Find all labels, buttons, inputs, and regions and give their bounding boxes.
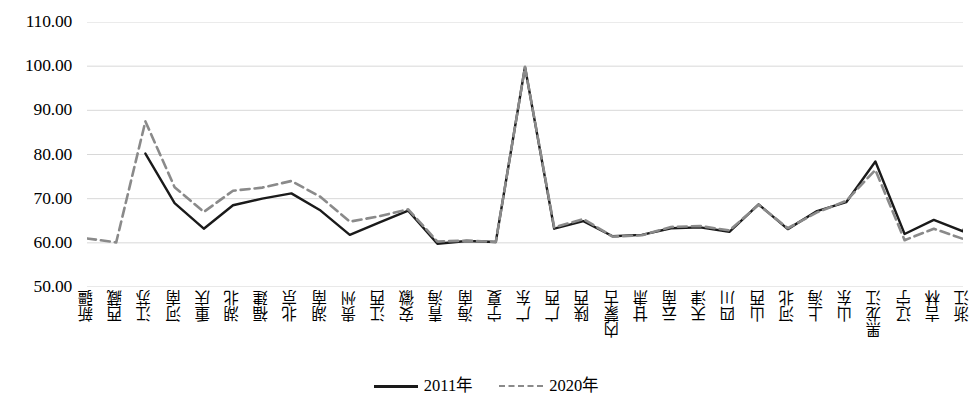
x-tick-label: 宁夏 xyxy=(488,290,504,322)
x-tick-label: 甘肃 xyxy=(634,290,650,322)
x-tick-label: 福建 xyxy=(254,290,270,322)
x-tick-label: 湖南 xyxy=(313,290,329,322)
x-tick-label: 安徽 xyxy=(400,290,416,322)
y-tick-label: 70.00 xyxy=(34,190,72,208)
line-chart: 110.00100.0090.0080.0070.0060.0050.00 新疆… xyxy=(0,0,973,411)
y-tick-label: 60.00 xyxy=(34,234,72,252)
legend-line-icon xyxy=(374,385,418,388)
chart-legend: 2011年2020年 xyxy=(0,378,973,395)
x-tick-label: 广东 xyxy=(517,290,533,322)
x-tick-label: 新疆 xyxy=(79,290,95,322)
x-tick-label: 西藏 xyxy=(108,290,124,322)
y-tick-label: 80.00 xyxy=(34,146,72,164)
x-tick-label: 北京 xyxy=(283,290,299,322)
x-tick-label: 内蒙古 xyxy=(605,290,621,338)
x-tick-label: 江苏 xyxy=(137,290,153,322)
x-tick-label: 黑龙江 xyxy=(867,290,883,338)
x-tick-label: 青海 xyxy=(429,290,445,322)
x-tick-label: 贵州 xyxy=(342,290,358,322)
y-axis: 110.00100.0090.0080.0070.0060.0050.00 xyxy=(0,0,80,311)
y-tick-label: 50.00 xyxy=(34,278,72,296)
x-tick-label: 陕西 xyxy=(575,290,591,322)
x-tick-label: 湖北 xyxy=(225,290,241,322)
x-tick-label: 重庆 xyxy=(196,290,212,322)
x-tick-label: 辽宁 xyxy=(897,290,913,322)
x-tick-label: 四川 xyxy=(721,290,737,322)
x-tick-label: 江西 xyxy=(371,290,387,322)
x-tick-label: 山东 xyxy=(838,290,854,322)
x-tick-label: 浙江 xyxy=(955,290,971,322)
y-tick-label: 110.00 xyxy=(26,13,72,31)
x-tick-label: 上海 xyxy=(809,290,825,322)
legend-entry[interactable]: 2011年 xyxy=(374,378,473,395)
x-tick-label: 吉林 xyxy=(926,290,942,322)
x-axis: 新疆西藏江苏河南重庆湖北福建北京湖南贵州江西安徽青海海南宁夏广东广西陕西内蒙古甘… xyxy=(87,290,963,374)
x-tick-label: 河南 xyxy=(167,290,183,322)
legend-line-icon xyxy=(499,385,543,387)
x-tick-label: 河北 xyxy=(780,290,796,322)
x-tick-label: 广西 xyxy=(546,290,562,322)
x-tick-label: 海南 xyxy=(459,290,475,322)
legend-entry[interactable]: 2020年 xyxy=(499,378,599,395)
x-tick-label: 天津 xyxy=(692,290,708,322)
plot-area xyxy=(87,22,963,287)
legend-label: 2011年 xyxy=(424,378,473,395)
x-tick-label: 云南 xyxy=(663,290,679,322)
series-line xyxy=(145,67,963,244)
x-tick-label: 山西 xyxy=(751,290,767,322)
series-lines xyxy=(87,22,963,287)
legend-label: 2020年 xyxy=(549,378,599,395)
y-tick-label: 90.00 xyxy=(34,101,72,119)
y-tick-label: 100.00 xyxy=(25,57,72,75)
